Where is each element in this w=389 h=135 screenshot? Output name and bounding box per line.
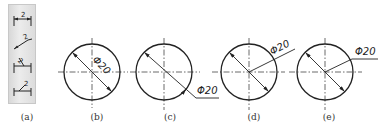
caption-a: (a) [21, 112, 33, 122]
panel-d-diameter-inclined: Φ20 [212, 38, 295, 110]
panel-b-diameter-inside: Φ20 [58, 38, 128, 108]
dimension-text: Φ20 [355, 46, 376, 57]
caption-b: (b) [91, 112, 104, 122]
caption-e: (e) [323, 112, 335, 122]
dimension-text: Φ20 [197, 85, 218, 96]
caption-d: (d) [248, 112, 261, 122]
panel-e-diameter-bent-leader: Φ20 [289, 38, 378, 110]
dimension-text: Φ20 [268, 38, 291, 57]
dimension-text: Φ20 [91, 54, 113, 76]
caption-c: (c) [164, 112, 176, 122]
leader-line [325, 59, 378, 72]
panel-c-diameter-outside: Φ20 [130, 38, 219, 110]
